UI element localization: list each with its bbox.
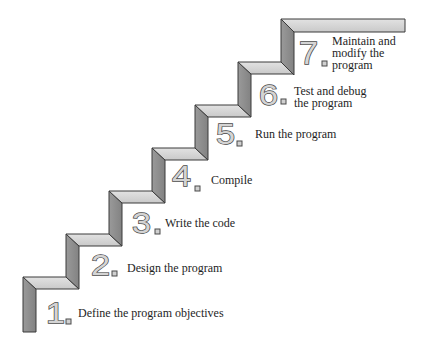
step-5-label: Run the program [255, 127, 337, 141]
step-6-label-line-2: the program [294, 96, 353, 110]
step-5-number-dot [237, 141, 242, 146]
step-1-label: Define the program objectives [78, 306, 224, 320]
step-7-number: 7 [299, 35, 318, 71]
step-4-number: 4 [172, 159, 191, 192]
step-7-tread [281, 19, 405, 32]
step-4-number-dot [195, 186, 200, 191]
step-3-label: Write the code [165, 216, 235, 230]
step-5-number: 5 [216, 117, 235, 150]
step-2-label: Design the program [127, 261, 223, 275]
programming-steps-staircase: 1 2 3 4 5 6 7 Define the program objecti… [0, 0, 426, 355]
step-6-number-dot [281, 99, 286, 104]
step-6-label: Test and debug the program [294, 84, 369, 110]
step-3-number-dot [155, 229, 160, 234]
step-6-number: 6 [259, 78, 278, 111]
step-7-number-dot [322, 61, 327, 66]
step-1-number-dot [66, 319, 71, 324]
step-2-number-dot [112, 271, 117, 276]
step-1-number: 1 [46, 296, 65, 329]
step-3-number: 3 [132, 206, 151, 239]
step-7-label-line-3: program [332, 58, 373, 72]
step-7-label: Maintain and modify the program [332, 34, 399, 72]
step-4-label: Compile [211, 173, 252, 187]
step-2-number: 2 [91, 248, 110, 281]
